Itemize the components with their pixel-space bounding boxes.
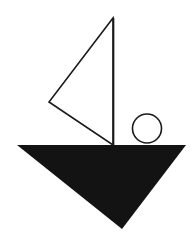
shape-figure-svg: [0, 0, 195, 246]
figure-canvas: [0, 0, 195, 246]
sun-circle: [133, 114, 162, 143]
